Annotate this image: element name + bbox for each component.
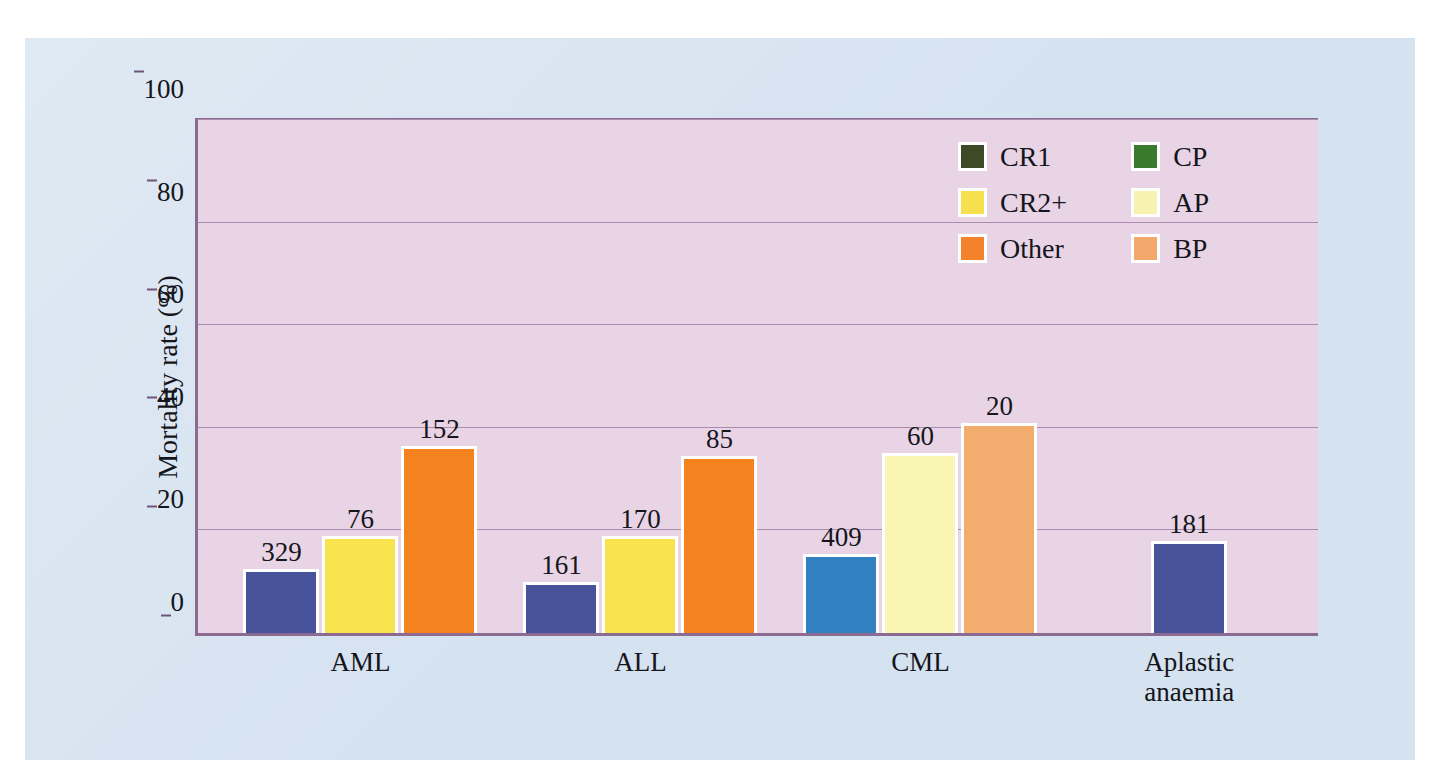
legend-item[interactable]: AP: [1131, 188, 1209, 217]
legend-label: CR1: [1000, 143, 1051, 171]
bar-value-label: 161: [541, 552, 582, 579]
legend-label: AP: [1173, 189, 1209, 217]
bar[interactable]: 76: [322, 536, 398, 633]
bar-value-label: 20: [986, 393, 1013, 420]
bar-value-label: 152: [419, 416, 460, 443]
legend-item[interactable]: CP: [1131, 142, 1209, 171]
y-axis-tick-label: 0: [171, 587, 185, 618]
legend-item[interactable]: BP: [1131, 234, 1209, 263]
bar-value-label: 409: [821, 524, 862, 551]
y-axis-tick-mark: [147, 179, 157, 181]
bar-value-label: 85: [706, 426, 733, 453]
x-axis-category-label: CML: [891, 647, 950, 677]
bar-value-label: 170: [620, 506, 661, 533]
legend-swatch: [1131, 142, 1160, 171]
x-axis-category-label: AML: [330, 647, 390, 677]
x-axis-category-label: Aplastic anaemia: [1144, 647, 1234, 707]
bar-group: 32976152: [243, 446, 477, 633]
x-axis-category-label: ALL: [614, 647, 666, 677]
y-axis-tick-label: 80: [157, 176, 184, 207]
legend: CR1CR2+Other CPAPBP: [958, 142, 1209, 263]
legend-label: BP: [1173, 235, 1207, 263]
legend-label: Other: [1000, 235, 1064, 263]
bar[interactable]: 181: [1151, 541, 1227, 633]
bar[interactable]: 329: [243, 569, 319, 633]
legend-column-1: CR1CR2+Other: [958, 142, 1067, 263]
legend-label: CP: [1173, 143, 1207, 171]
bar-group: 181: [1151, 541, 1227, 633]
legend-swatch: [1131, 234, 1160, 263]
bar-value-label: 76: [347, 506, 374, 533]
legend-swatch: [958, 234, 987, 263]
legend-swatch: [1131, 188, 1160, 217]
y-axis-title: Mortality rate (%): [152, 275, 184, 479]
bar[interactable]: 170: [602, 536, 678, 633]
y-axis-tick-mark: [134, 71, 144, 73]
bar-group: 16117085: [523, 456, 757, 633]
plot-inner: 020406080100 Mortality rate (%) 32976152…: [198, 120, 1318, 633]
legend-item[interactable]: CR1: [958, 142, 1067, 171]
y-axis-tick-label: 20: [157, 484, 184, 515]
bar[interactable]: 60: [882, 453, 958, 633]
legend-item[interactable]: Other: [958, 234, 1067, 263]
legend-swatch: [958, 142, 987, 171]
legend-item[interactable]: CR2+: [958, 188, 1067, 217]
gridline: [198, 427, 1318, 428]
bar[interactable]: 409: [803, 554, 879, 634]
legend-label: CR2+: [1000, 189, 1067, 217]
bar-group: 4096020: [803, 423, 1037, 633]
bar[interactable]: 152: [401, 446, 477, 633]
figure-panel: 020406080100 Mortality rate (%) 32976152…: [25, 38, 1415, 760]
bar[interactable]: 85: [681, 456, 757, 633]
legend-swatch: [958, 188, 987, 217]
gridline: [198, 324, 1318, 325]
y-axis-tick-mark: [147, 506, 157, 508]
chart-figure: 020406080100 Mortality rate (%) 32976152…: [0, 0, 1437, 782]
plot-area: 020406080100 Mortality rate (%) 32976152…: [195, 118, 1318, 636]
y-axis-tick-label: 100: [144, 74, 185, 105]
bar-value-label: 60: [907, 423, 934, 450]
bar-value-label: 181: [1169, 511, 1210, 538]
bar[interactable]: 161: [523, 582, 599, 633]
y-axis-tick-mark: [161, 615, 171, 617]
gridline: [198, 119, 1318, 120]
legend-column-2: CPAPBP: [1131, 142, 1209, 263]
bar[interactable]: 20: [961, 423, 1037, 633]
bar-value-label: 329: [261, 539, 302, 566]
